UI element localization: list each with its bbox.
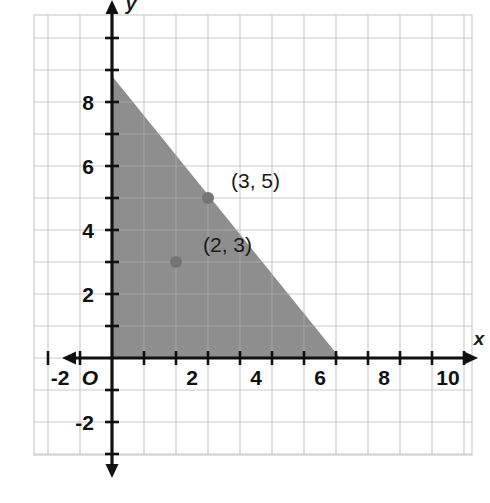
x-tick-label-2: 2 [186,366,198,389]
data-point-3-5[interactable] [202,192,214,204]
x-tick-label-8: 8 [378,366,390,389]
x-axis-label: x [473,328,486,349]
x-tick-label--2: -2 [51,366,70,389]
y-tick-label-8: 8 [82,91,94,114]
data-point-label-2-3: (2, 3) [203,233,252,256]
coordinate-graph: -2 2 4 6 8 10 8 6 4 2 -2 O x y (3, 5) (2… [0,0,490,503]
y-axis-label: y [125,0,138,14]
graph-canvas: -2 2 4 6 8 10 8 6 4 2 -2 O x y (3, 5) (2… [0,0,490,503]
y-tick-label--2: -2 [75,411,94,434]
x-tick-label-6: 6 [314,366,326,389]
y-tick-label-6: 6 [82,155,94,178]
origin-label: O [82,366,98,389]
data-point-2-3[interactable] [170,256,182,268]
y-tick-label-4: 4 [82,219,94,242]
x-tick-label-4: 4 [250,366,262,389]
y-tick-label-2: 2 [82,283,94,306]
data-point-label-3-5: (3, 5) [231,169,280,192]
x-tick-label-10: 10 [436,366,459,389]
